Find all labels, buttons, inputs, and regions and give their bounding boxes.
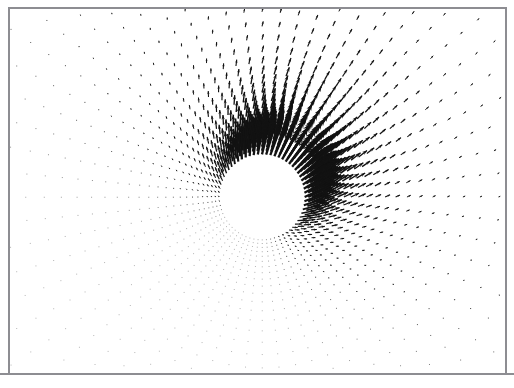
frame-border-left — [8, 7, 10, 375]
quiver-plot-canvas — [8, 8, 507, 374]
plot-area — [8, 8, 507, 374]
frame-border-bottom — [0, 373, 514, 375]
frame-border-top — [8, 7, 506, 9]
vector-field-figure — [0, 0, 514, 388]
frame-border-right — [505, 7, 507, 375]
